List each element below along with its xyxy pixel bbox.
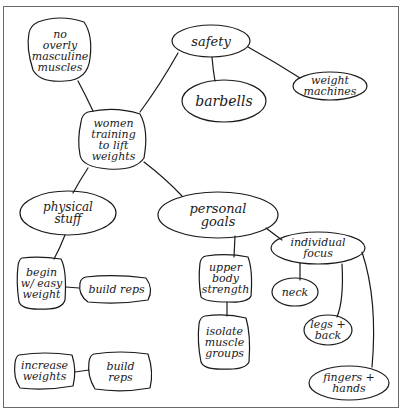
edge-safety-barbells [212,57,215,81]
edge-central-physical [73,168,88,193]
edge-central-personal [144,162,182,196]
node-shape-upper [199,255,251,302]
node-shape-central [79,109,146,169]
edge-central-no-masculine [78,81,93,111]
node-shape-build-reps-1 [80,276,151,303]
node-shape-increase [15,353,75,389]
node-shape-neck [272,278,318,306]
node-shape-legs-back [304,315,352,345]
edge-individual-fingers [362,252,374,367]
edge-begin-buildreps1 [66,287,79,288]
node-shape-individual [271,232,365,264]
edge-physical-begin [54,235,65,259]
edge-safety-weight-machines [248,47,300,78]
node-shape-build-reps-2 [89,352,152,391]
edge-personal-upper [234,236,235,257]
node-shape-begin [17,257,65,309]
node-shape-fingers-hands [309,366,389,400]
node-shape-barbells [182,80,266,122]
node-shape-no-masculine [28,18,91,81]
edge-individual-legs [337,264,342,317]
node-shape-weight-machines [293,72,367,100]
node-shape-personal [158,192,278,238]
diagram-shapes [0,0,403,417]
node-shape-safety [172,25,250,57]
edge-central-safety [140,53,178,112]
edge-increase-buildreps2 [75,370,89,372]
node-shape-physical [20,191,116,235]
concept-map-canvas: no overly masculine muscles women traini… [0,0,403,417]
node-shape-isolate [198,315,249,369]
